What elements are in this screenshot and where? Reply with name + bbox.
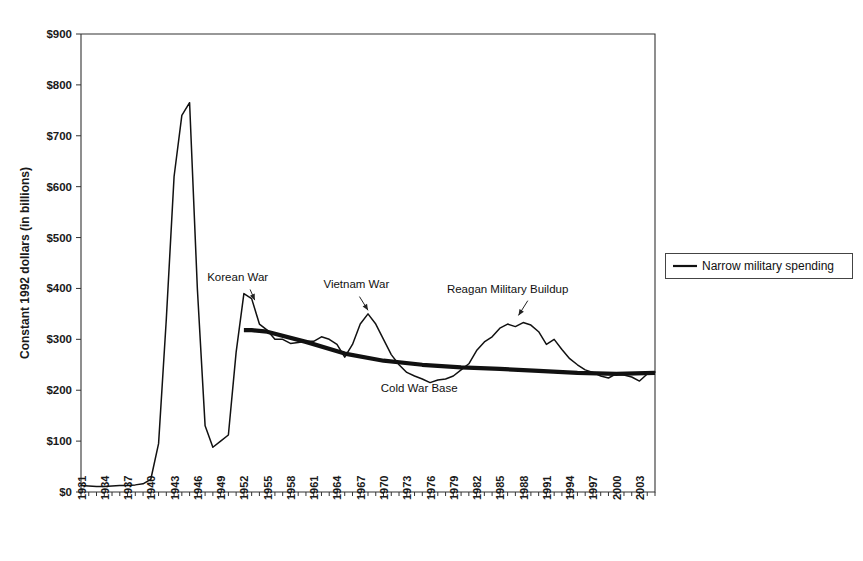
x-tick-label: 1979 (448, 476, 460, 500)
annotation-label-vietnam-war: Vietnam War (323, 278, 389, 290)
x-tick-label: 1937 (122, 476, 134, 500)
legend-label-narrow-military-spending: Narrow military spending (702, 259, 834, 273)
annotation-label-cold-war-base: Cold War Base (381, 382, 458, 394)
plot-frame (81, 34, 655, 492)
x-tick-label: 1973 (401, 476, 413, 500)
annotation-label-reagan-military-buildup: Reagan Military Buildup (447, 283, 568, 295)
y-tick-label: $400 (46, 282, 72, 294)
y-axis-title-text: Constant 1992 dollars (in billions) (18, 167, 32, 359)
data-series (81, 103, 655, 487)
x-tick-label: 1958 (285, 476, 297, 500)
annotation-arrowhead-vietnam-war (363, 304, 368, 310)
x-tick-label: 1949 (215, 476, 227, 500)
y-tick-label: $200 (46, 384, 72, 396)
y-tick-label: $600 (46, 181, 72, 193)
series-line-cold-war-base (244, 330, 655, 374)
y-tick-label: $100 (46, 435, 72, 447)
x-tick-label: 1961 (308, 476, 320, 500)
y-tick-label: $900 (46, 28, 72, 40)
x-tick-label: 1955 (262, 476, 274, 500)
x-tick-label: 1934 (99, 475, 111, 500)
x-tick-label: 1976 (425, 476, 437, 500)
x-tick-label: 1988 (518, 476, 530, 500)
x-tick-label: 1997 (587, 476, 599, 500)
x-tick-label: 1994 (564, 475, 576, 500)
y-tick-label: $300 (46, 333, 72, 345)
annotation-arrowhead-reagan-military-buildup (518, 309, 523, 315)
x-tick-label: 1952 (238, 476, 250, 500)
annotation-label-korean-war: Korean War (207, 271, 268, 283)
y-tick-label: $0 (59, 486, 72, 498)
x-tick-label: 1946 (192, 476, 204, 500)
x-tick-label: 1931 (76, 476, 88, 500)
x-tick-label: 1967 (355, 476, 367, 500)
y-tick-label: $500 (46, 232, 72, 244)
y-tick-label: $800 (46, 79, 72, 91)
x-axis-labels: 1931193419371940194319461949195219551958… (76, 475, 646, 500)
x-tick-label: 2003 (634, 476, 646, 500)
chart-figure: $0$100$200$300$400$500$600$700$800$900 1… (0, 0, 863, 561)
x-tick-label: 1964 (331, 475, 343, 500)
x-tick-label: 1982 (471, 476, 483, 500)
x-tick-label: 1985 (494, 476, 506, 500)
series-line-narrow-military-spending (81, 103, 655, 487)
x-tick-label: 1991 (541, 476, 553, 500)
x-tick-label: 1943 (169, 476, 181, 500)
x-tick-label: 1970 (378, 476, 390, 500)
y-axis-title: Constant 1992 dollars (in billions) (18, 167, 32, 359)
y-axis: $0$100$200$300$400$500$600$700$800$900 (46, 28, 81, 498)
chart-legend: Narrow military spending (666, 254, 853, 279)
x-tick-label: 2000 (611, 476, 623, 500)
y-tick-label: $700 (46, 130, 72, 142)
military-spending-line-chart: $0$100$200$300$400$500$600$700$800$900 1… (0, 0, 863, 561)
